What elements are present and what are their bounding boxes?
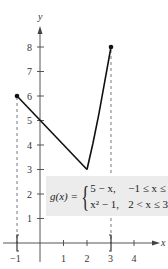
y-tick-label-6: 6 (27, 91, 32, 102)
y-tick-label-2: 2 (27, 189, 32, 200)
x-tick-label-neg1: −1 (10, 253, 21, 264)
endpoint-closed-right (109, 45, 114, 50)
function-name: g(x) = (50, 190, 78, 202)
case-2-condition: 2 < x ≤ 3 (128, 196, 168, 212)
y-tick-label-4: 4 (27, 140, 32, 151)
y-tick-label-8: 8 (27, 42, 32, 53)
formula-case-2: x² − 1, 2 < x ≤ 3 (90, 196, 168, 212)
formula-case-1: 5 − x, −1 ≤ x ≤ 2 (90, 180, 168, 196)
x-axis-arrow-icon (152, 241, 160, 246)
segment-quadratic (87, 47, 111, 170)
y-tick-label-7: 7 (27, 66, 32, 77)
x-tick-label-2: 2 (85, 253, 90, 264)
case-2-expression: x² − 1, (90, 196, 128, 212)
formula-cases: 5 − x, −1 ≤ x ≤ 2 x² − 1, 2 < x ≤ 3 (90, 180, 168, 212)
brace-icon: { (81, 181, 89, 211)
endpoint-closed-left (15, 94, 20, 99)
y-tick-label-3: 3 (27, 164, 32, 175)
graph-canvas: 1 2 3 4 5 6 7 8 −1 1 2 3 4 y x (0, 0, 168, 269)
x-axis-label: x (160, 237, 166, 248)
x-tick-label-3: 3 (108, 253, 113, 264)
case-1-expression: 5 − x, (90, 180, 128, 196)
piecewise-formula: g(x) = { 5 − x, −1 ≤ x ≤ 2 x² − 1, 2 < x… (50, 179, 168, 213)
y-axis-arrow-icon (38, 26, 43, 34)
segment-linear (17, 96, 87, 170)
x-tick-label-4: 4 (132, 253, 137, 264)
y-ticks (37, 47, 44, 219)
x-tick-label-1: 1 (61, 253, 66, 264)
case-1-condition: −1 ≤ x ≤ 2 (128, 180, 168, 196)
y-tick-label-1: 1 (27, 213, 32, 224)
y-axis-label: y (37, 11, 43, 22)
y-tick-label-5: 5 (27, 115, 32, 126)
